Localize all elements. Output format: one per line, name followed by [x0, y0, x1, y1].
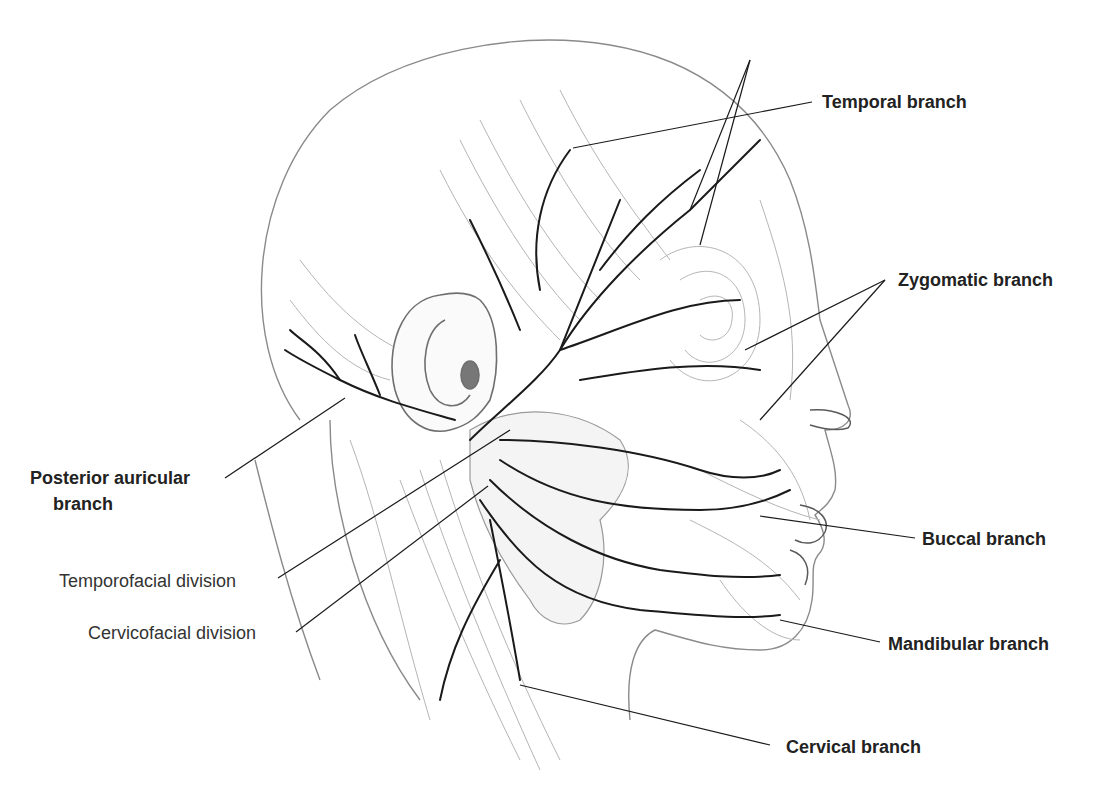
ear: [392, 293, 497, 431]
parotid-gland: [470, 412, 628, 624]
leader-cervicofacial: [296, 486, 488, 632]
label-posterior-auricular-line2: branch: [53, 493, 113, 515]
leader-temporal-2: [750, 60, 812, 102]
label-cervical-branch: Cervical branch: [786, 736, 921, 758]
leader-zygomatic: [745, 280, 885, 350]
label-cervicofacial-division: Cervicofacial division: [88, 622, 256, 644]
leader-lines: [225, 60, 915, 745]
label-temporofacial-division: Temporofacial division: [59, 570, 236, 592]
leader-temporal-1: [573, 102, 812, 148]
label-temporal-branch: Temporal branch: [822, 91, 967, 113]
leader-temporofacial: [278, 430, 510, 578]
facial-nerve-diagram: Temporal branch Zygomatic branch Posteri…: [0, 0, 1112, 805]
leader-posterior-auricular: [225, 398, 345, 478]
label-mandibular-branch: Mandibular branch: [888, 633, 1049, 655]
facial-features: [790, 410, 850, 585]
leader-cervical: [520, 685, 770, 745]
head-illustration: [0, 0, 1112, 805]
label-buccal-branch: Buccal branch: [922, 528, 1046, 550]
leader-buccal: [760, 516, 915, 538]
label-zygomatic-branch: Zygomatic branch: [898, 269, 1053, 291]
leader-mandibular: [780, 620, 880, 642]
label-posterior-auricular-line1: Posterior auricular: [30, 467, 190, 489]
